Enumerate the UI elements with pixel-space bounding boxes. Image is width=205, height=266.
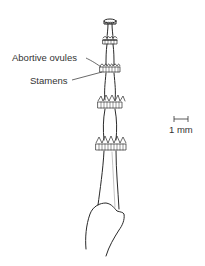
whorl-2 (103, 37, 117, 45)
scale-bar (174, 116, 188, 122)
label-stamens: Stamens (30, 76, 68, 86)
basal-receptacle (86, 203, 125, 256)
leader-line-stamens (72, 72, 102, 80)
terminal-whorl (104, 19, 116, 24)
label-abortive-ovules: Abortive ovules (12, 53, 77, 63)
scale-bar-label: 1 mm (169, 125, 193, 135)
whorl-3-stamens-ovules (100, 64, 120, 72)
flower-axis-diagram: Abortive ovules Stamens 1 mm (0, 0, 205, 266)
whorl-4 (98, 95, 125, 108)
whorl-5 (96, 136, 126, 150)
leader-line-abortive-ovules (86, 58, 101, 67)
